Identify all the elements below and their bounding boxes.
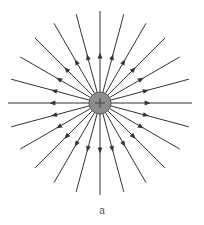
arrowhead-icon bbox=[137, 123, 143, 128]
arrowhead-icon bbox=[98, 52, 103, 58]
arrowhead-icon bbox=[145, 101, 151, 106]
arrowhead-icon bbox=[120, 140, 125, 146]
arrowhead-icon bbox=[109, 54, 114, 60]
arrowhead-icon bbox=[137, 78, 143, 83]
arrowhead-icon bbox=[142, 112, 148, 117]
arrowhead-icon bbox=[109, 145, 114, 151]
field-line bbox=[35, 111, 92, 168]
arrowhead-icon bbox=[86, 54, 91, 60]
field-line-diagram bbox=[0, 0, 204, 225]
field-line bbox=[108, 111, 165, 168]
arrowhead-icon bbox=[56, 78, 62, 83]
arrowhead-icon bbox=[120, 59, 125, 65]
arrowhead-icon bbox=[75, 140, 80, 146]
arrowhead-icon bbox=[75, 59, 80, 65]
arrowhead-icon bbox=[51, 89, 57, 94]
arrowhead-icon bbox=[98, 148, 103, 154]
arrowhead-icon bbox=[51, 112, 57, 117]
arrowhead-icon bbox=[142, 89, 148, 94]
field-line bbox=[108, 38, 165, 95]
arrowhead-icon bbox=[86, 145, 91, 151]
figure-caption: a bbox=[0, 205, 204, 216]
field-line bbox=[35, 38, 92, 95]
arrowhead-icon bbox=[56, 123, 62, 128]
arrowhead-icon bbox=[49, 101, 55, 106]
